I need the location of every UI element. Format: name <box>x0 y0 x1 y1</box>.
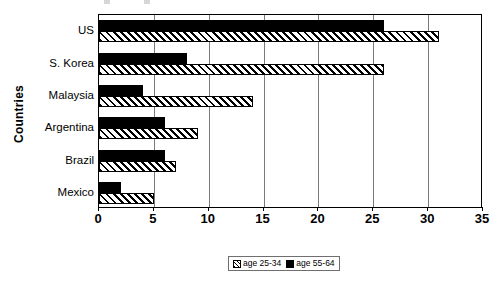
y-axis-tick-label: S. Korea <box>22 57 94 69</box>
x-axis-tick-mark <box>208 207 209 211</box>
bars-layer <box>99 15 481 207</box>
y-axis-tick-label: Argentina <box>22 121 94 133</box>
legend-label: age 25-34 <box>243 259 281 268</box>
bar <box>99 53 187 64</box>
x-axis-tick-label: 15 <box>243 211 283 226</box>
cropped-title-residue <box>104 0 224 4</box>
bar <box>99 31 439 42</box>
x-axis-tick-mark <box>317 207 318 211</box>
bar <box>99 20 384 31</box>
x-axis-tick-label: 10 <box>188 211 228 226</box>
x-axis-tick-label: 25 <box>352 211 392 226</box>
legend-label: age 55-64 <box>296 259 334 268</box>
legend-entry: age 55-64 <box>286 259 334 268</box>
bar <box>99 96 253 107</box>
x-axis-tick-label: 5 <box>133 211 173 226</box>
legend-swatch-icon <box>286 260 294 268</box>
bar <box>99 182 121 193</box>
x-axis-tick-label: 20 <box>297 211 337 226</box>
bar-chart: Countries USS. KoreaMalaysiaArgentinaBra… <box>0 0 503 283</box>
y-axis-tick-label: Mexico <box>22 186 94 198</box>
y-axis-tick-labels: USS. KoreaMalaysiaArgentinaBrazilMexico <box>22 14 94 208</box>
x-axis-tick-mark <box>263 207 264 211</box>
legend-swatch-icon <box>233 260 241 268</box>
x-axis-tick-mark <box>98 207 99 211</box>
bar <box>99 150 165 161</box>
bar <box>99 193 154 204</box>
bar <box>99 161 176 172</box>
y-axis-tick-label: Brazil <box>22 154 94 166</box>
chart-legend: age 25-34age 55-64 <box>228 256 340 271</box>
x-axis-tick-labels: 05101520253035 <box>98 211 482 231</box>
y-axis-tick-label: US <box>22 24 94 36</box>
y-axis-tick-label: Malaysia <box>22 89 94 101</box>
x-axis-tick-mark <box>427 207 428 211</box>
bar <box>99 117 165 128</box>
bar <box>99 64 384 75</box>
bar <box>99 85 143 96</box>
legend-entry: age 25-34 <box>233 259 281 268</box>
x-axis-tick-mark <box>153 207 154 211</box>
x-axis-tick-label: 0 <box>78 211 118 226</box>
x-axis-tick-label: 30 <box>407 211 447 226</box>
bar <box>99 128 198 139</box>
plot-area <box>98 14 482 208</box>
x-axis-tick-label: 35 <box>462 211 502 226</box>
x-axis-tick-mark <box>372 207 373 211</box>
x-axis-tick-mark <box>482 207 483 211</box>
